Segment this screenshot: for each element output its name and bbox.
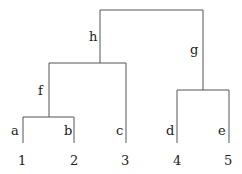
leaf-label-5: 5 bbox=[224, 153, 232, 168]
edge-label-f: f bbox=[38, 83, 44, 98]
edge-label-e: e bbox=[218, 123, 226, 138]
edge-label-a: a bbox=[11, 123, 19, 138]
edge-label-h: h bbox=[89, 29, 98, 44]
leaf-label-4: 4 bbox=[173, 153, 181, 168]
edge-label-b: b bbox=[64, 123, 72, 138]
leaf-label-3: 3 bbox=[121, 153, 129, 168]
edge-label-d: d bbox=[166, 123, 174, 138]
edge-label-c: c bbox=[116, 123, 123, 138]
leaf-label-1: 1 bbox=[18, 153, 26, 168]
dendrogram: h g f a b c d e 1 2 3 4 5 bbox=[0, 0, 242, 174]
edge-label-g: g bbox=[190, 42, 198, 57]
leaf-label-2: 2 bbox=[70, 153, 78, 168]
